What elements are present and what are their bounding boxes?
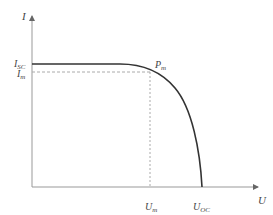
iv-curve	[32, 64, 202, 187]
y-axis-label: I	[21, 10, 27, 22]
x-axis-label: U	[258, 194, 267, 206]
pm-label: Pm	[154, 59, 166, 72]
uoc-label: UOC	[193, 201, 210, 214]
iv-curve-diagram: I U ISC Im Pm Um UOC	[0, 0, 273, 215]
um-label: Um	[145, 201, 157, 214]
